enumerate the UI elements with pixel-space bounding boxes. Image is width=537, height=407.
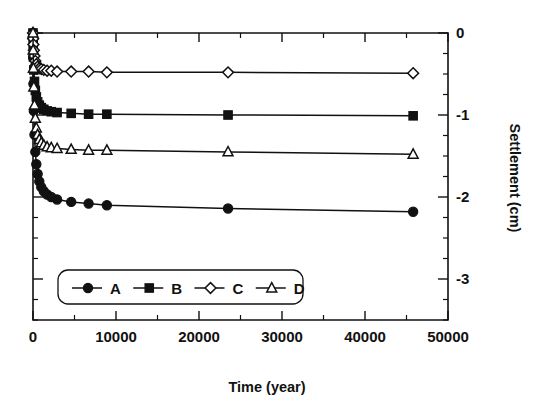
data-marker [409,207,418,216]
legend-label: C [233,280,244,297]
x-axis-title: Time (year) [228,379,305,395]
x-tick-label: 50000 [427,328,469,345]
y-axis-title: Settlement (cm) [507,124,523,233]
y-tick-label: -2 [456,188,469,205]
data-marker [67,197,76,206]
data-marker [103,110,111,118]
x-tick-label: 10000 [95,328,137,345]
settlement-vs-time-chart: 01000020000300004000050000 0-1-2-3 Time … [0,0,537,407]
data-marker [102,201,111,210]
chart-legend: ABCD [58,270,305,304]
y-tick-label: -3 [456,270,469,287]
x-tick-label: 40000 [344,328,386,345]
x-tick-label: 0 [29,328,37,345]
data-marker [84,110,92,118]
y-tick-label: -1 [456,106,469,123]
data-marker [409,112,417,120]
data-marker [32,160,41,169]
legend-label: B [171,280,182,297]
data-marker [53,108,61,116]
x-tick-label: 30000 [261,328,303,345]
data-marker [224,111,232,119]
y-tick-label: 0 [456,24,464,41]
legend-label: A [110,280,121,297]
data-marker [84,199,93,208]
x-tick-label: 20000 [178,328,220,345]
data-marker [67,109,75,117]
data-marker [83,283,92,292]
chart-canvas: 01000020000300004000050000 0-1-2-3 Time … [0,0,537,407]
data-marker [145,284,153,292]
data-marker [52,195,61,204]
data-marker [223,204,232,213]
legend-label: D [294,280,305,297]
